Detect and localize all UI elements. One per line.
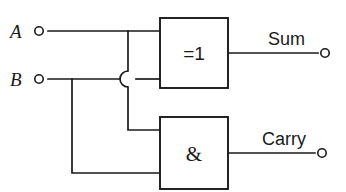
- wire-b-branch-to-and: [72, 79, 160, 173]
- half-adder-diagram: =1 & A B Sum Carry: [0, 0, 346, 192]
- output-sum-label: Sum: [268, 29, 305, 49]
- input-a-label: A: [8, 21, 22, 42]
- gate-and-symbol: &: [186, 142, 202, 166]
- output-sum-terminal-icon[interactable]: [321, 49, 329, 57]
- wire-a-branch-to-and: [128, 87, 160, 130]
- circuit-canvas: =1 & A B Sum Carry: [0, 0, 346, 192]
- output-carry-label: Carry: [262, 129, 306, 149]
- input-b-terminal-icon[interactable]: [35, 75, 43, 83]
- input-b-label: B: [10, 69, 22, 90]
- output-carry-terminal-icon[interactable]: [318, 149, 326, 157]
- input-a-terminal-icon[interactable]: [35, 27, 43, 35]
- gate-xor-symbol: =1: [183, 43, 205, 64]
- wire-crossing-hop-icon: [120, 71, 128, 87]
